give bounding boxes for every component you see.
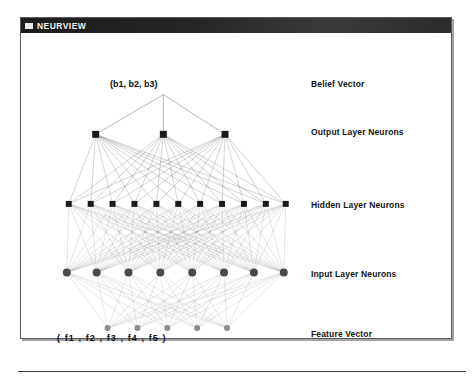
connection-edge [222,204,224,273]
connection-edge [167,272,224,328]
feature-node-2[interactable] [134,325,140,331]
edges-output-to-belief [96,95,225,135]
edges-input-to-hidden [67,204,286,273]
input-layer-nodes [63,268,288,276]
hidden-neuron-4[interactable] [131,201,137,207]
input-neuron-1[interactable] [63,268,71,276]
legend-label-hidden-layer-neurons: Hidden Layer Neurons [311,200,405,210]
connection-edge [197,272,224,328]
connection-edge [163,95,225,135]
input-neuron-4[interactable] [156,268,164,276]
hidden-neuron-9[interactable] [241,201,247,207]
connection-edge [156,134,163,204]
input-neuron-8[interactable] [280,268,288,276]
hidden-neuron-2[interactable] [88,201,94,207]
feature-vector-caption: ( f1 , f2 , f3 , f4 , f5 ) [57,333,167,343]
output-layer-nodes [92,131,228,138]
connection-edge [227,272,284,328]
connection-edge [69,204,192,273]
input-neuron-2[interactable] [93,268,101,276]
connection-edge [96,134,113,204]
connection-edge [67,272,108,328]
edges-hidden-to-output [69,134,286,204]
connection-edge [137,272,192,328]
neurview-window: NEURVIEW (b1, b2, b3) ( f1 , f2 , f3 , f… [20,17,452,339]
connection-edge [67,272,138,328]
window-menu-icon[interactable] [25,23,33,29]
input-neuron-3[interactable] [125,268,133,276]
legend-label-feature-vector: Feature Vector [311,329,372,339]
connection-edge [200,204,284,273]
page-divider-rule [18,371,466,372]
feature-node-1[interactable] [105,325,111,331]
input-neuron-6[interactable] [220,268,228,276]
connection-edge [178,204,254,273]
connection-edge [96,134,179,204]
hidden-neuron-5[interactable] [153,201,159,207]
connection-edge [96,134,286,204]
connection-edge [129,272,198,328]
hidden-neuron-10[interactable] [263,201,269,207]
feature-node-4[interactable] [194,325,200,331]
output-neuron-1[interactable] [92,131,99,138]
feature-node-3[interactable] [164,325,170,331]
connection-edge [96,95,164,135]
connection-edge [97,204,201,273]
legend-label-input-layer-neurons: Input Layer Neurons [311,269,397,279]
connection-edge [192,204,200,273]
connection-edge [91,204,193,273]
connection-edge [97,204,244,273]
diagram-client-area: (b1, b2, b3) ( f1 , f2 , f3 , f4 , f5 ) … [21,33,451,338]
connection-edge [163,134,244,204]
neural-network-diagram [21,33,451,338]
connection-edge [97,204,113,273]
belief-vector-caption: (b1, b2, b3) [110,79,158,89]
hidden-layer-nodes [66,201,289,207]
connection-edge [160,272,227,328]
window-title: NEURVIEW [37,21,86,31]
connection-edge [227,272,254,328]
connection-edge [163,134,222,204]
output-neuron-3[interactable] [222,131,229,138]
connection-edge [67,204,69,273]
window-title-bar[interactable]: NEURVIEW [21,18,451,33]
connection-edge [96,134,244,204]
hidden-neuron-3[interactable] [110,201,116,207]
connection-edge [225,134,266,204]
connection-edge [192,272,227,328]
hidden-neuron-6[interactable] [175,201,181,207]
connection-edge [91,134,225,204]
connection-edge [113,204,284,273]
connection-edge [192,272,197,328]
output-neuron-2[interactable] [160,131,167,138]
connection-edge [225,134,286,204]
connection-edge [224,272,227,328]
legend-label-output-layer-neurons: Output Layer Neurons [311,127,404,137]
connection-edge [69,134,164,204]
connection-edge [108,272,193,328]
hidden-neuron-8[interactable] [219,201,225,207]
connection-edge [96,134,266,204]
legend-label-belief-vector: Belief Vector [311,79,364,89]
feature-node-5[interactable] [224,325,230,331]
feature-nodes [105,325,230,331]
input-neuron-5[interactable] [188,268,196,276]
hidden-neuron-7[interactable] [197,201,203,207]
edges-feature-to-input [67,272,284,328]
hidden-neuron-11[interactable] [283,201,289,207]
connection-edge [97,272,227,328]
connection-edge [134,204,283,273]
input-neuron-7[interactable] [250,268,258,276]
connection-edge [97,204,266,273]
connection-edge [225,134,244,204]
connection-edge [284,204,286,273]
connection-edge [91,204,224,273]
hidden-neuron-1[interactable] [66,201,72,207]
connection-edge [113,134,164,204]
connection-edge [67,272,227,328]
